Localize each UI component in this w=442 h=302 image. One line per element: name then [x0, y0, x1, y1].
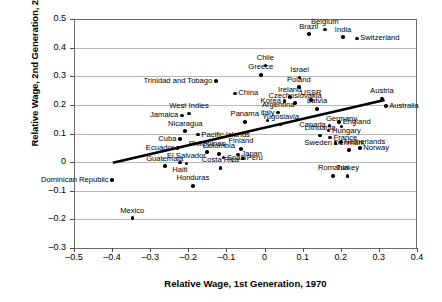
y-tick-label: 0.5 — [24, 13, 66, 23]
data-point-label: Trinidad and Tobago — [143, 77, 212, 85]
data-point-label: Austria — [370, 87, 394, 95]
data-point — [293, 101, 297, 105]
scatter-chart-figure: Relative Wage, 2nd Generation, 2000 Rela… — [0, 0, 442, 302]
data-point-label: India — [335, 26, 351, 34]
data-point-label: Panama — [231, 110, 259, 118]
data-point — [219, 166, 223, 170]
x-tick-label: 0.3 — [359, 252, 399, 262]
y-tick-label: 0.4 — [24, 42, 66, 52]
data-point — [347, 148, 351, 152]
y-tick-label: 0.3 — [24, 70, 66, 80]
data-point — [337, 120, 341, 124]
data-point — [358, 146, 362, 150]
data-point — [315, 107, 319, 111]
data-point — [341, 35, 345, 39]
data-point — [180, 114, 184, 118]
x-tick-label: 0.2 — [321, 252, 361, 262]
data-point — [331, 174, 335, 178]
data-point-label: West Indies — [169, 102, 209, 110]
data-point-label: Dominican Republic — [41, 176, 109, 184]
data-point-label: Turkey — [336, 164, 359, 172]
y-tick-label: –0.2 — [24, 213, 66, 223]
data-point — [205, 150, 209, 154]
x-tick-label: 0.4 — [397, 252, 437, 262]
data-point-label: Nicaragua — [168, 120, 203, 128]
data-point — [187, 112, 191, 116]
data-point — [243, 120, 247, 124]
y-tick-label: –0.3 — [24, 242, 66, 252]
data-point — [191, 184, 195, 188]
y-tick-label: 0.2 — [24, 99, 66, 109]
y-tick-label: 0.1 — [24, 128, 66, 138]
data-point — [233, 92, 237, 96]
data-point — [276, 111, 280, 115]
data-point-label: Yugoslavia — [262, 113, 299, 121]
data-point — [259, 73, 263, 77]
x-tick-label: –0.2 — [168, 252, 208, 262]
data-point — [163, 164, 167, 168]
data-point-label: Latvia — [307, 97, 327, 105]
x-tick-label: 0.1 — [283, 252, 323, 262]
data-point-label: Mexico — [120, 207, 144, 215]
data-point-label: Israel — [290, 66, 309, 74]
data-point — [355, 37, 359, 41]
data-point-label: Chile — [257, 54, 274, 62]
data-point-label: China — [238, 89, 258, 97]
data-point-label: Cuba — [158, 135, 176, 143]
data-point — [214, 79, 218, 83]
data-point — [239, 147, 243, 151]
data-point-label: El Salvador — [167, 152, 206, 160]
data-point-label: Japan — [241, 150, 262, 158]
x-tick-label: –0.4 — [92, 252, 132, 262]
data-point-label: Norway — [363, 144, 389, 152]
data-point-label: Honduras — [176, 174, 209, 182]
data-point-label: Australia — [389, 102, 419, 110]
y-tick-label: 0 — [24, 156, 66, 166]
data-point — [380, 97, 384, 101]
data-point-label: Lithuania — [305, 124, 336, 132]
data-point-label: Greece — [248, 63, 273, 71]
gridline — [74, 248, 417, 249]
data-point — [307, 32, 311, 36]
data-point-label: Finland — [228, 137, 253, 145]
x-tick-label: –0.1 — [206, 252, 246, 262]
data-point — [323, 28, 327, 32]
data-point-label: Switzerland — [360, 34, 399, 42]
data-point — [384, 104, 388, 108]
y-tick-label: –0.1 — [24, 185, 66, 195]
data-point — [131, 216, 135, 220]
data-point-label: England — [343, 118, 371, 126]
x-axis-label: Relative Wage, 1st Generation, 1970 — [74, 278, 417, 289]
data-point — [110, 178, 114, 182]
x-tick-label: 0 — [245, 252, 285, 262]
x-tick-label: –0.5 — [54, 252, 94, 262]
data-point — [236, 153, 240, 157]
data-point-label: Sweden — [304, 139, 331, 147]
data-point — [178, 137, 182, 141]
x-tick-label: –0.3 — [130, 252, 170, 262]
data-point-label: Costa Rica — [202, 156, 239, 164]
